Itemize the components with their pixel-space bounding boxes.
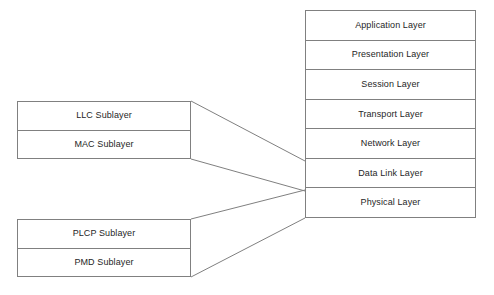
osi-row-presentation[interactable]: Presentation Layer	[306, 41, 475, 71]
osi-row-transport[interactable]: Transport Layer	[306, 100, 475, 130]
sublayer-row-llc[interactable]: LLC Sublayer	[18, 102, 190, 131]
osi-row-network[interactable]: Network Layer	[306, 129, 475, 159]
sublayer-row-pmd[interactable]: PMD Sublayer	[18, 249, 190, 277]
osi-label-network: Network Layer	[361, 139, 420, 148]
sublayer-label-llc: LLC Sublayer	[76, 111, 132, 120]
osi-label-physical: Physical Layer	[361, 198, 421, 207]
osi-label-application: Application Layer	[355, 21, 426, 30]
osi-row-physical[interactable]: Physical Layer	[306, 188, 475, 217]
physical-sublayer-group: PLCP Sublayer PMD Sublayer	[17, 219, 191, 277]
osi-label-presentation: Presentation Layer	[352, 50, 429, 59]
sublayer-row-mac[interactable]: MAC Sublayer	[18, 131, 190, 159]
plcp-pmd-to-physical-upper	[191, 190, 305, 219]
osi-row-application[interactable]: Application Layer	[306, 11, 475, 41]
llc-mac-to-data-link-upper	[191, 101, 305, 161]
sublayer-label-mac: MAC Sublayer	[74, 140, 133, 149]
osi-layer-stack: Application Layer Presentation Layer Ses…	[305, 10, 476, 218]
plcp-pmd-to-physical-lower	[191, 218, 305, 277]
sublayer-row-plcp[interactable]: PLCP Sublayer	[18, 220, 190, 249]
osi-label-data-link: Data Link Layer	[358, 169, 423, 178]
diagram-canvas: LLC Sublayer MAC Sublayer PLCP Sublayer …	[0, 0, 494, 295]
sublayer-label-plcp: PLCP Sublayer	[73, 229, 136, 238]
llc-mac-to-data-link-lower	[191, 159, 305, 191]
data-link-sublayer-group: LLC Sublayer MAC Sublayer	[17, 101, 191, 159]
osi-label-session: Session Layer	[361, 80, 419, 89]
sublayer-label-pmd: PMD Sublayer	[74, 258, 133, 267]
osi-row-session[interactable]: Session Layer	[306, 70, 475, 100]
osi-row-data-link[interactable]: Data Link Layer	[306, 159, 475, 189]
osi-label-transport: Transport Layer	[358, 110, 423, 119]
